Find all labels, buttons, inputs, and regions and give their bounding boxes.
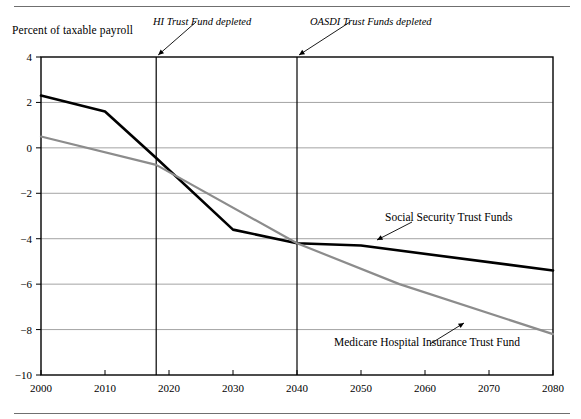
svg-text:−8: −8: [20, 324, 32, 336]
svg-text:2030: 2030: [222, 382, 245, 394]
svg-text:2060: 2060: [414, 382, 437, 394]
svg-text:−2: −2: [20, 187, 32, 199]
svg-text:2040: 2040: [286, 382, 309, 394]
svg-text:2: 2: [27, 96, 33, 108]
svg-text:−6: −6: [20, 278, 32, 290]
vertical-depletion-markers: [156, 57, 297, 375]
svg-text:2000: 2000: [30, 382, 53, 394]
svg-text:4: 4: [27, 51, 33, 63]
y-axis-ticks: [36, 57, 41, 375]
svg-text:−4: −4: [20, 233, 32, 245]
chart-figure: Percent of taxable payroll HI Trust Fund…: [0, 0, 581, 419]
svg-text:2080: 2080: [542, 382, 565, 394]
svg-text:0: 0: [27, 142, 33, 154]
svg-text:2050: 2050: [350, 382, 373, 394]
x-axis-tick-labels: 200020102020203020402050206020702080: [30, 382, 565, 394]
svg-text:2070: 2070: [478, 382, 501, 394]
svg-text:−10: −10: [15, 369, 33, 381]
y-axis-tick-labels: 420−2−4−6−8−10: [15, 51, 33, 381]
svg-text:2020: 2020: [158, 382, 181, 394]
svg-text:2010: 2010: [94, 382, 117, 394]
chart-plot-area: 200020102020203020402050206020702080 420…: [0, 0, 581, 419]
annotation-arrows: [158, 22, 464, 344]
